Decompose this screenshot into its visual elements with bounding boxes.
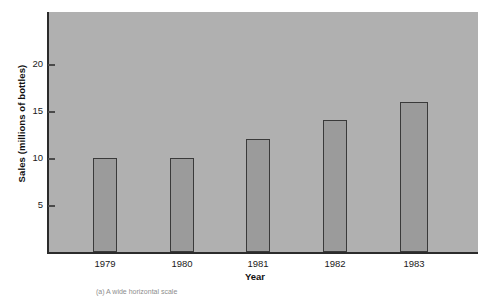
bar-1983	[400, 102, 428, 252]
x-axis-tick-label-1979: 1979	[75, 258, 135, 269]
x-axis-tick-label-1983: 1983	[384, 258, 444, 269]
x-axis-line	[47, 252, 478, 254]
x-axis-tick-label-1980: 1980	[152, 258, 212, 269]
y-axis-title: Sales (millions of bottles)	[16, 44, 27, 204]
y-axis-tick-5	[48, 205, 55, 207]
y-axis-line	[47, 12, 49, 253]
y-axis-tick-15	[48, 111, 55, 113]
y-axis-tick-10	[48, 158, 55, 160]
x-axis-tick-label-1982: 1982	[305, 258, 365, 269]
bar-1980	[170, 158, 194, 252]
x-axis-title: Year	[225, 271, 285, 282]
bar-1981	[246, 139, 270, 252]
bar-chart-figure: 20 15 10 5 Sales (millions of bottles) 1…	[0, 0, 486, 299]
y-axis-tick-20	[48, 64, 55, 66]
bar-1982	[323, 120, 347, 252]
figure-caption: (a) A wide horizontal scale	[96, 288, 177, 296]
x-axis-tick-label-1981: 1981	[228, 258, 288, 269]
bar-1979	[93, 158, 117, 252]
